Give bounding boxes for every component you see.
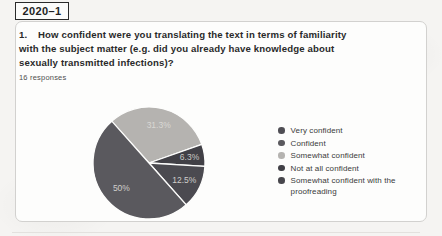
pie-slice-percent-label: 12.5%	[172, 175, 197, 185]
pie-slice-percent-label: 50%	[113, 183, 130, 193]
pie-slice-percent-label: 6.3%	[180, 152, 200, 162]
pie-slice-percent-label: 31.3%	[147, 120, 172, 130]
pie-chart[interactable]: 31.3%6.3%12.5%50%	[0, 0, 442, 236]
scan-artifact-line	[12, 232, 420, 233]
scanned-survey-page: 2020–1 1.How confident were you translat…	[0, 0, 442, 236]
